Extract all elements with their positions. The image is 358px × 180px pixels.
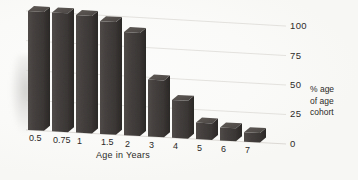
bar-side-face [68, 8, 74, 132]
bar-front-face [52, 12, 68, 132]
y-tick-label: 0 [290, 138, 296, 149]
bar [220, 122, 242, 141]
bar-front-face [100, 21, 116, 135]
bar [100, 16, 122, 135]
x-tick-label: 6 [221, 144, 226, 154]
bar-side-face [116, 17, 122, 135]
x-tick-label: 1.5 [101, 137, 114, 147]
bar [52, 7, 74, 132]
x-axis-title: Age in Years [96, 150, 150, 160]
x-tick-label: 5 [197, 143, 202, 153]
bar [244, 127, 266, 142]
bar-front-face [124, 32, 140, 136]
bar [124, 27, 146, 136]
bar-front-face [220, 127, 236, 141]
y-axis-title: % ageof agecohort [310, 84, 334, 119]
bar-front-face [172, 100, 188, 139]
bar-side-face [188, 96, 194, 139]
y-axis-title-line: of age [310, 96, 334, 108]
x-tick-label: 1 [77, 136, 82, 146]
bar [28, 6, 50, 131]
bar-side-face [92, 11, 98, 134]
y-tick-label: 100 [290, 20, 307, 31]
x-tick-label: 0.5 [29, 133, 42, 143]
bar-side-face [164, 76, 170, 138]
x-tick-label: 2 [125, 139, 130, 149]
bar-front-face [148, 80, 164, 138]
bar-front-face [244, 132, 260, 142]
bar [76, 10, 98, 133]
y-tick-label: 25 [290, 108, 301, 119]
bar [148, 75, 170, 138]
bar [196, 118, 218, 140]
chart-container: 0255075100 0.50.7511.5234567 Age in Year… [0, 0, 358, 180]
bars-group [28, 6, 266, 143]
x-tick-label: 3 [149, 140, 154, 150]
y-axis-title-line: % age [310, 84, 334, 96]
y-tick-label: 75 [290, 50, 301, 61]
bar-side-face [140, 28, 146, 136]
bar-side-face [44, 7, 50, 131]
bar-front-face [28, 11, 44, 131]
x-tick-label: 7 [245, 145, 250, 155]
x-tick-label: 0.75 [53, 135, 71, 145]
bar [172, 95, 194, 139]
y-tick-label: 50 [290, 79, 301, 90]
y-axis-title-line: cohort [310, 107, 334, 119]
bar-front-face [76, 15, 92, 133]
bar-front-face [196, 123, 212, 140]
x-tick-label: 4 [173, 141, 178, 151]
